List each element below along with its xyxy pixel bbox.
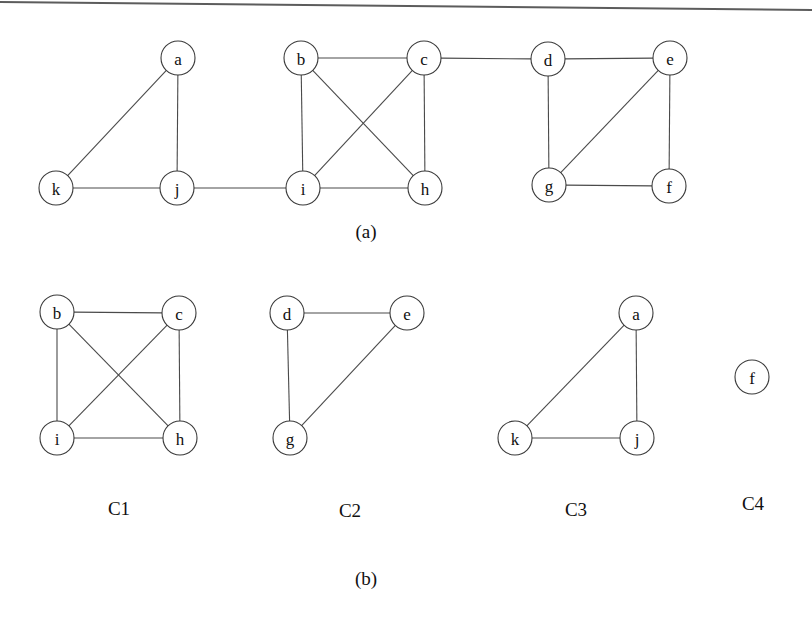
panel-b-cluster-label-layer: C1C2C3C4 xyxy=(108,493,765,521)
graph-node-a-h[interactable]: h xyxy=(408,171,442,205)
node-label-a-a: a xyxy=(174,50,182,69)
node-label-C2-g: g xyxy=(286,430,295,449)
node-label-C1-h: h xyxy=(176,430,185,449)
node-label-C1-c: c xyxy=(175,305,183,324)
graph-edge-C1-b-c xyxy=(74,312,162,313)
graph-node-C2-g[interactable]: g xyxy=(273,421,307,455)
panel-a-edge-layer xyxy=(68,58,670,188)
panel-a-caption: (a) xyxy=(355,221,376,243)
graph-edge-a-c-d xyxy=(441,58,531,59)
graph-node-a-g[interactable]: g xyxy=(532,168,566,202)
graph-node-a-a[interactable]: a xyxy=(161,41,195,75)
node-label-C2-d: d xyxy=(283,305,292,324)
cluster-label-c3: C3 xyxy=(565,499,587,520)
graph-node-a-c[interactable]: c xyxy=(407,41,441,75)
graph-node-C1-i[interactable]: i xyxy=(40,421,74,455)
graph-edge-C3-a-j xyxy=(636,330,637,421)
cluster-label-c4: C4 xyxy=(742,493,765,514)
panel-b-caption: (b) xyxy=(355,568,377,590)
node-label-C1-b: b xyxy=(53,304,62,323)
graph-edge-C2-e-g xyxy=(302,325,396,425)
graph-node-C3-a[interactable]: a xyxy=(619,296,653,330)
node-label-a-c: c xyxy=(420,50,428,69)
graph-node-C3-j[interactable]: j xyxy=(620,421,654,455)
cluster-label-c2: C2 xyxy=(339,500,361,521)
graph-edge-a-b-i xyxy=(301,75,302,171)
graph-node-C1-c[interactable]: c xyxy=(162,296,196,330)
graph-node-a-e[interactable]: e xyxy=(653,41,687,75)
graph-edge-a-a-j xyxy=(177,75,178,171)
graph-edge-a-g-f xyxy=(566,185,652,186)
graph-edge-C3-a-k xyxy=(527,325,624,426)
graph-node-a-i[interactable]: i xyxy=(286,171,320,205)
graph-edge-a-c-h xyxy=(424,75,425,171)
panel-b-edge-layer xyxy=(57,312,637,438)
node-label-a-d: d xyxy=(544,51,553,70)
node-label-a-h: h xyxy=(421,180,430,199)
graph-edge-C1-c-i xyxy=(69,325,167,426)
node-label-C2-e: e xyxy=(403,305,411,324)
node-label-a-g: g xyxy=(545,177,554,196)
node-label-C3-k: k xyxy=(511,430,520,449)
node-label-a-j: j xyxy=(174,180,180,199)
node-label-a-b: b xyxy=(297,50,306,69)
graph-node-C4-f[interactable]: f xyxy=(735,360,769,394)
node-label-a-i: i xyxy=(301,180,306,199)
top-scan-rule xyxy=(0,2,812,10)
cluster-label-c1: C1 xyxy=(108,498,130,519)
graph-edge-C2-d-g xyxy=(287,330,289,421)
panel-b-node-layer: bcihdegakjf xyxy=(40,295,769,455)
node-label-a-k: k xyxy=(52,180,61,199)
graph-node-a-b[interactable]: b xyxy=(284,41,318,75)
graph-clustering-figure: abcdefghijk (a) bcihdegakjf C1C2C3C4 (b) xyxy=(0,0,812,640)
graph-node-C2-d[interactable]: d xyxy=(270,296,304,330)
graph-edge-a-d-e xyxy=(565,58,653,59)
graph-edge-a-e-f xyxy=(669,75,670,169)
node-label-C1-i: i xyxy=(55,430,60,449)
graph-edge-a-d-g xyxy=(548,76,549,168)
graph-node-C1-b[interactable]: b xyxy=(40,295,74,329)
graph-node-a-f[interactable]: f xyxy=(652,169,686,203)
graph-edge-a-e-g xyxy=(561,70,659,172)
graph-node-C3-k[interactable]: k xyxy=(498,421,532,455)
node-label-C3-j: j xyxy=(634,430,640,449)
node-label-C3-a: a xyxy=(632,305,640,324)
node-label-a-f: f xyxy=(666,178,672,197)
graph-edge-a-a-k xyxy=(68,70,167,175)
graph-node-C2-e[interactable]: e xyxy=(390,296,424,330)
graph-node-a-j[interactable]: j xyxy=(160,171,194,205)
node-label-a-e: e xyxy=(666,50,674,69)
graph-node-a-k[interactable]: k xyxy=(39,171,73,205)
figure-page: abcdefghijk (a) bcihdegakjf C1C2C3C4 (b) xyxy=(0,0,812,640)
graph-edge-C1-c-h xyxy=(179,330,180,421)
graph-node-a-d[interactable]: d xyxy=(531,42,565,76)
graph-node-C1-h[interactable]: h xyxy=(163,421,197,455)
node-label-C4-f: f xyxy=(749,369,755,388)
